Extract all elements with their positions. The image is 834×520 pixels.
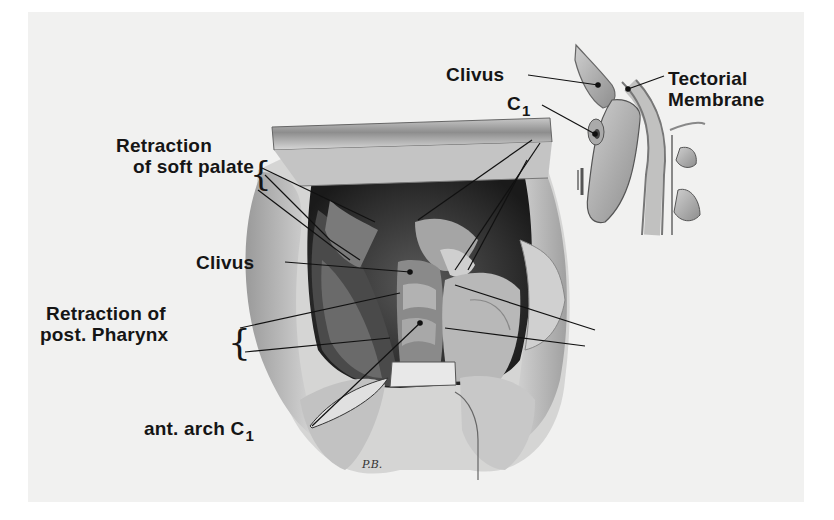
upper-retractor [272,118,552,186]
oral-opening [246,150,570,480]
label-c1-inset: C1 [507,93,530,115]
label-tectorial-line1: Tectorial [668,68,765,89]
label-clivus-inset: Clivus [446,64,504,85]
label-soft-palate-line2: of soft palate [64,156,254,177]
label-clivus-main: Clivus [196,252,254,273]
label-ant-arch-c1: ant. arch C1 [144,418,254,440]
label-ant-arch-subscript: 1 [245,427,254,444]
label-c1-inset-subscript: 1 [522,102,531,119]
brace-post-pharynx: { [228,325,251,361]
label-retraction-soft-palate: Retraction of soft palate [64,135,254,177]
label-c1-inset-text: C [507,93,521,114]
brace-soft-palate: { [250,156,272,190]
artist-signature: P.B. [362,458,382,471]
label-soft-palate-line1: Retraction [64,135,254,156]
label-ant-arch-text: ant. arch C [144,418,244,439]
label-pharynx-line2: post. Pharynx [40,324,230,345]
label-tectorial-membrane: Tectorial Membrane [668,68,765,110]
label-retraction-post-pharynx: Retraction of post. Pharynx [40,303,230,345]
label-pharynx-line1: Retraction of [40,303,230,324]
label-tectorial-line2: Membrane [668,89,765,110]
